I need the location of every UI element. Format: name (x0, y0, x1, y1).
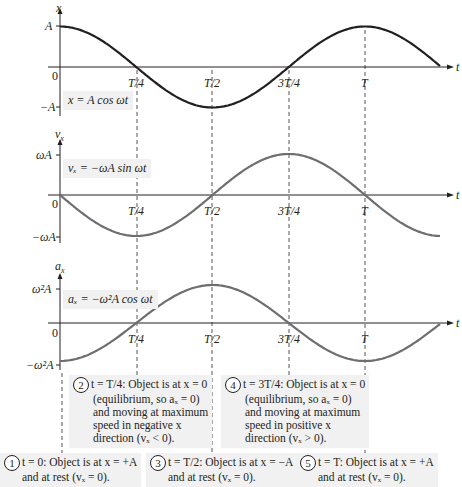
tick-label-3tquarter: 3T/4 (277, 204, 300, 218)
equation-acceleration: aₓ = −ω²A cos ωt (63, 290, 158, 309)
tick-label-tquarter: T/4 (128, 332, 144, 346)
label-zero: 0 (52, 69, 58, 83)
graph-acceleration: ax ω²A −ω²A 0 t T/4 T/2 3T/4 T (26, 259, 460, 372)
label-t: t (456, 60, 460, 74)
label-zero: 0 (52, 197, 58, 211)
label-t: t (456, 188, 460, 202)
label-t: t (456, 316, 460, 330)
tick-label-thalf: T/2 (204, 204, 220, 218)
y-label-x: x (55, 1, 62, 15)
tick-label-tquarter: T/4 (128, 204, 144, 218)
y-label-vx: vx (55, 127, 64, 143)
tick-label-thalf: T/2 (204, 332, 220, 346)
t-axis-arrow (447, 321, 454, 326)
step-number-3: 3 (150, 455, 166, 471)
tick-label-3tquarter: 3T/4 (277, 76, 300, 90)
step-number-5: 5 (300, 455, 316, 471)
tick-label-t: T (361, 204, 369, 218)
tick-label-t: T (361, 76, 369, 90)
label-negomegaA: −ωA (32, 230, 57, 244)
label-omegaA: ωA (36, 148, 52, 162)
tick-label-3tquarter: 3T/4 (277, 332, 300, 346)
callout-5: 5t = T: Object is at x = +A and at rest … (296, 453, 438, 487)
tick-label-t: T (361, 332, 369, 346)
equation-position: x = A cos ωt (63, 91, 133, 110)
callout-3: 3t = T/2: Object is at x = −A and at res… (146, 453, 297, 487)
label-omega2A: ω²A (32, 282, 52, 296)
label-negomega2A: −ω²A (26, 358, 54, 372)
y-label-ax: ax (55, 259, 65, 275)
t-axis-arrow (447, 65, 454, 70)
tick-label-thalf: T/2 (204, 76, 220, 90)
label-A: A (44, 19, 53, 33)
callout-1: 1t = 0: Object is at x = +A and at rest … (0, 453, 141, 487)
callout-4: 4t = 3T/4: Object is at x = 0 (equilibri… (221, 375, 369, 448)
tick-label-tquarter: T/4 (128, 76, 144, 90)
label-negA: −A (40, 100, 56, 114)
callout-2: 2t = T/4: Object is at x = 0 (equilibriu… (69, 375, 212, 448)
step-number-4: 4 (225, 377, 241, 393)
step-number-1: 1 (4, 455, 20, 471)
equation-velocity: vₓ = −ωA sin ωt (63, 159, 151, 178)
label-zero: 0 (52, 326, 58, 340)
t-axis-arrow (447, 193, 454, 198)
step-number-2: 2 (73, 377, 89, 393)
graph-velocity: vx ωA −ωA 0 t T/4 T/2 3T/4 T (32, 127, 460, 244)
